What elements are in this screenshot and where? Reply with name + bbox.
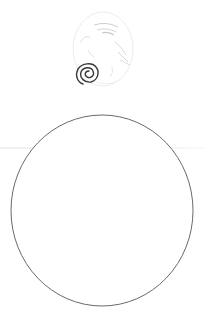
large-circle [10, 114, 194, 307]
face-sketch [60, 5, 150, 95]
drawing-page: Scanned drawing: faint pencil sketch of … [0, 0, 206, 324]
